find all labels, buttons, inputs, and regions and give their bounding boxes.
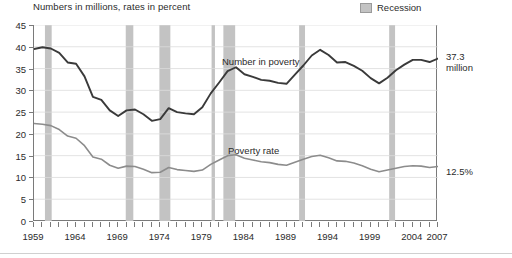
x-axis-tick bbox=[370, 222, 371, 227]
x-axis-tick bbox=[227, 222, 228, 227]
x-axis-tick bbox=[319, 222, 320, 227]
x-axis-tick bbox=[159, 222, 160, 227]
x-axis-tick bbox=[218, 222, 219, 227]
x-axis-tick bbox=[176, 222, 177, 227]
x-axis-tick bbox=[328, 222, 329, 227]
x-axis-tick bbox=[429, 222, 430, 227]
x-axis-tick bbox=[336, 222, 337, 227]
series-label-number-in-poverty: Number in poverty bbox=[222, 56, 300, 67]
x-axis-tick bbox=[33, 222, 34, 227]
x-axis-tick bbox=[294, 222, 295, 227]
x-axis-tick bbox=[117, 222, 118, 227]
x-axis-tick bbox=[302, 222, 303, 227]
x-axis-tick bbox=[50, 222, 51, 227]
x-axis-tick bbox=[109, 222, 110, 227]
x-axis-tick bbox=[387, 222, 388, 227]
x-axis-tick bbox=[243, 222, 244, 227]
x-axis-tick-label: 2007 bbox=[426, 231, 447, 242]
x-axis-tick-label: 1999 bbox=[359, 231, 380, 242]
x-axis-tick bbox=[344, 222, 345, 227]
x-axis-tick bbox=[185, 222, 186, 227]
x-axis-tick-label: 1984 bbox=[233, 231, 254, 242]
bottom-divider bbox=[0, 253, 512, 254]
x-axis-tick bbox=[84, 222, 85, 227]
x-axis-tick bbox=[58, 222, 59, 227]
x-axis-tick bbox=[142, 222, 143, 227]
x-axis-tick bbox=[41, 222, 42, 227]
x-axis: 1959196419691974197919841989199419992004… bbox=[0, 0, 512, 258]
x-axis-tick bbox=[403, 222, 404, 227]
x-axis-tick-label: 1974 bbox=[149, 231, 170, 242]
x-axis-tick bbox=[126, 222, 127, 227]
x-axis-tick-label: 1969 bbox=[107, 231, 128, 242]
x-axis-tick bbox=[277, 222, 278, 227]
series-label-poverty-rate: Poverty rate bbox=[228, 145, 279, 156]
x-axis-tick bbox=[252, 222, 253, 227]
x-axis-tick bbox=[134, 222, 135, 227]
x-axis-tick bbox=[193, 222, 194, 227]
poverty-chart-figure: Numbers in millions, rates in percent Re… bbox=[0, 0, 512, 258]
x-axis-tick bbox=[437, 222, 438, 227]
x-axis-tick-label: 1979 bbox=[191, 231, 212, 242]
x-axis-tick bbox=[235, 222, 236, 227]
x-axis-tick bbox=[378, 222, 379, 227]
x-axis-tick-label: 1989 bbox=[275, 231, 296, 242]
x-axis-tick bbox=[353, 222, 354, 227]
x-axis-tick bbox=[361, 222, 362, 227]
x-axis-tick bbox=[92, 222, 93, 227]
x-axis-tick-label: 1959 bbox=[22, 231, 43, 242]
x-axis-tick bbox=[75, 222, 76, 227]
x-axis-tick bbox=[260, 222, 261, 227]
x-axis-tick bbox=[420, 222, 421, 227]
x-axis-tick bbox=[395, 222, 396, 227]
x-axis-tick bbox=[100, 222, 101, 227]
x-axis-tick bbox=[67, 222, 68, 227]
x-axis-tick bbox=[151, 222, 152, 227]
x-axis-tick-label: 1994 bbox=[317, 231, 338, 242]
x-axis-tick bbox=[168, 222, 169, 227]
x-axis-tick bbox=[201, 222, 202, 227]
x-axis-tick bbox=[286, 222, 287, 227]
x-axis-tick bbox=[311, 222, 312, 227]
x-axis-tick bbox=[412, 222, 413, 227]
end-value-number-in-poverty: 37.3 million bbox=[446, 51, 473, 73]
x-axis-tick-label: 1964 bbox=[65, 231, 86, 242]
end-value-poverty-rate: 12.5% bbox=[446, 166, 473, 177]
x-axis-tick bbox=[210, 222, 211, 227]
x-axis-tick bbox=[269, 222, 270, 227]
x-axis-tick-label: 2004 bbox=[401, 231, 422, 242]
